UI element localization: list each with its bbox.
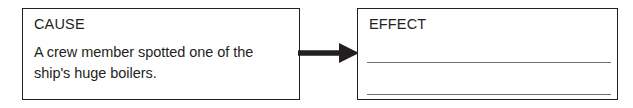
- cause-text-line-1: A crew member spotted one of the: [34, 42, 292, 63]
- effect-answer-line-1[interactable]: [367, 62, 611, 63]
- right-arrow-icon: [298, 41, 360, 65]
- cause-box: CAUSE A crew member spotted one of the s…: [22, 8, 300, 100]
- effect-box: EFFECT: [357, 8, 618, 100]
- cause-text-line-2: ship's huge boilers.: [34, 63, 292, 84]
- effect-label: EFFECT: [369, 15, 426, 34]
- effect-answer-line-2[interactable]: [367, 94, 611, 95]
- cause-effect-diagram: CAUSE A crew member spotted one of the s…: [0, 0, 633, 108]
- cause-label: CAUSE: [34, 15, 85, 34]
- cause-text: A crew member spotted one of the ship's …: [34, 42, 292, 83]
